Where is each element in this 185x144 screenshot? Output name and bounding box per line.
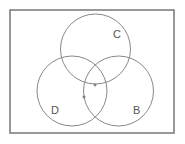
- venn-diagram: CDB: [0, 0, 185, 144]
- set-label-b: B: [133, 104, 140, 116]
- set-label-d: D: [51, 104, 59, 116]
- set-label-c: C: [113, 28, 121, 40]
